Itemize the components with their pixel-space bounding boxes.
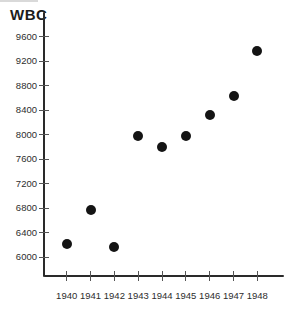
y-tick bbox=[39, 36, 49, 37]
y-tick bbox=[39, 134, 49, 135]
x-tick bbox=[209, 271, 210, 281]
x-tick-label: 1941 bbox=[78, 290, 104, 302]
y-tick-label: 6400 bbox=[6, 227, 37, 239]
plot-area: 6000640068007200760080008400880092009600… bbox=[0, 0, 287, 321]
x-axis-line bbox=[44, 275, 284, 277]
y-tick-label: 6000 bbox=[6, 251, 37, 263]
y-tick-label: 8000 bbox=[6, 129, 37, 141]
data-point bbox=[109, 242, 119, 252]
y-tick-label: 7200 bbox=[6, 178, 37, 190]
data-point bbox=[229, 91, 239, 101]
x-tick bbox=[257, 271, 258, 281]
chart-page: WBC 600064006800720076008000840088009200… bbox=[0, 0, 287, 321]
x-tick-label: 1947 bbox=[221, 290, 247, 302]
data-point bbox=[205, 110, 215, 120]
y-tick bbox=[39, 110, 49, 111]
y-tick bbox=[39, 159, 49, 160]
y-tick-label: 6800 bbox=[6, 202, 37, 214]
data-point bbox=[157, 142, 167, 152]
x-tick bbox=[233, 271, 234, 281]
x-tick bbox=[162, 271, 163, 281]
y-tick-label: 9600 bbox=[6, 31, 37, 43]
y-tick bbox=[39, 183, 49, 184]
x-tick-label: 1944 bbox=[149, 290, 175, 302]
data-point bbox=[133, 131, 143, 141]
x-tick-label: 1943 bbox=[125, 290, 151, 302]
x-tick bbox=[114, 271, 115, 281]
x-tick bbox=[138, 271, 139, 281]
x-tick-label: 1940 bbox=[54, 290, 80, 302]
y-tick bbox=[39, 257, 49, 258]
x-tick bbox=[90, 271, 91, 281]
y-tick bbox=[39, 85, 49, 86]
x-tick-label: 1948 bbox=[244, 290, 270, 302]
x-tick-label: 1945 bbox=[173, 290, 199, 302]
y-tick bbox=[39, 208, 49, 209]
x-tick bbox=[185, 271, 186, 281]
y-tick bbox=[39, 61, 49, 62]
data-point bbox=[181, 131, 191, 141]
data-point bbox=[252, 46, 262, 56]
y-tick bbox=[39, 232, 49, 233]
y-tick-label: 7600 bbox=[6, 153, 37, 165]
y-tick-label: 8800 bbox=[6, 80, 37, 92]
x-tick bbox=[66, 271, 67, 281]
data-point bbox=[86, 205, 96, 215]
x-tick-label: 1946 bbox=[197, 290, 223, 302]
data-point bbox=[62, 239, 72, 249]
y-tick-label: 8400 bbox=[6, 104, 37, 116]
y-axis-line bbox=[43, 12, 45, 277]
y-tick-label: 9200 bbox=[6, 55, 37, 67]
x-tick-label: 1942 bbox=[101, 290, 127, 302]
